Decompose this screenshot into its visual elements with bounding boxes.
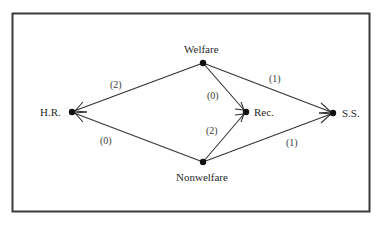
edge-welfare-ss bbox=[203, 63, 331, 112]
edge-label-nonwelfare-ss: (1) bbox=[286, 138, 298, 148]
node-dot-hr bbox=[69, 109, 75, 115]
node-dot-welfare bbox=[200, 60, 206, 66]
node-dot-ss bbox=[330, 110, 336, 116]
node-dot-rec bbox=[243, 109, 249, 115]
edge-nonwelfare-ss bbox=[203, 114, 331, 162]
edge-welfare-rec bbox=[203, 63, 244, 110]
node-label-nonwelfare: Nonwelfare bbox=[176, 172, 228, 183]
edge-label-nonwelfare-hr: (0) bbox=[100, 136, 112, 146]
node-label-hr: H.R. bbox=[40, 107, 61, 118]
node-label-rec: Rec. bbox=[254, 107, 274, 118]
edge-label-welfare-rec: (0) bbox=[207, 91, 219, 101]
node-dot-nonwelfare bbox=[200, 159, 206, 165]
node-label-ss: S.S. bbox=[342, 108, 360, 119]
edge-label-nonwelfare-rec: (2) bbox=[206, 126, 218, 136]
node-label-welfare: Welfare bbox=[184, 44, 219, 55]
edge-label-welfare-hr: (2) bbox=[110, 80, 122, 90]
edge-nonwelfare-hr bbox=[74, 113, 203, 162]
edge-welfare-hr bbox=[74, 63, 203, 111]
edge-label-welfare-ss: (1) bbox=[269, 74, 281, 84]
diagram-canvas: Welfare Nonwelfare H.R. Rec. S.S. (2) (0… bbox=[0, 0, 381, 234]
